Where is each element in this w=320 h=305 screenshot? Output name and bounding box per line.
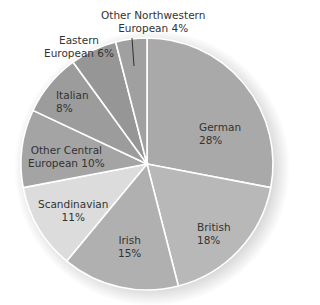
label-irish: Irish 15% bbox=[118, 234, 141, 260]
label-other-central-name: Other Central bbox=[28, 144, 105, 157]
label-italian: Italian 8% bbox=[56, 89, 89, 115]
label-other-central-value: European 10% bbox=[28, 157, 105, 170]
label-german: German 28% bbox=[199, 121, 241, 147]
label-scandinavian-name: Scandinavian bbox=[38, 198, 108, 211]
label-other-northwestern: Other Northwestern European 4% bbox=[101, 9, 205, 35]
label-italian-name: Italian bbox=[56, 89, 89, 102]
label-scandinavian-value: 11% bbox=[38, 211, 108, 224]
label-eastern-name: Eastern bbox=[44, 34, 114, 47]
label-british-name: British bbox=[197, 221, 231, 234]
label-eastern-value: European 6% bbox=[44, 47, 114, 60]
label-german-value: 28% bbox=[199, 134, 241, 147]
label-eastern: Eastern European 6% bbox=[44, 34, 114, 60]
label-other-northwestern-value: European 4% bbox=[101, 22, 205, 35]
label-scandinavian: Scandinavian 11% bbox=[38, 198, 108, 224]
pie-slice-german bbox=[147, 38, 273, 188]
label-british: British 18% bbox=[197, 221, 231, 247]
label-irish-value: 15% bbox=[118, 247, 141, 260]
label-german-name: German bbox=[199, 121, 241, 134]
label-irish-name: Irish bbox=[118, 234, 141, 247]
label-other-central: Other Central European 10% bbox=[28, 144, 105, 170]
label-british-value: 18% bbox=[197, 234, 231, 247]
label-italian-value: 8% bbox=[56, 102, 89, 115]
label-other-northwestern-name: Other Northwestern bbox=[101, 9, 205, 22]
